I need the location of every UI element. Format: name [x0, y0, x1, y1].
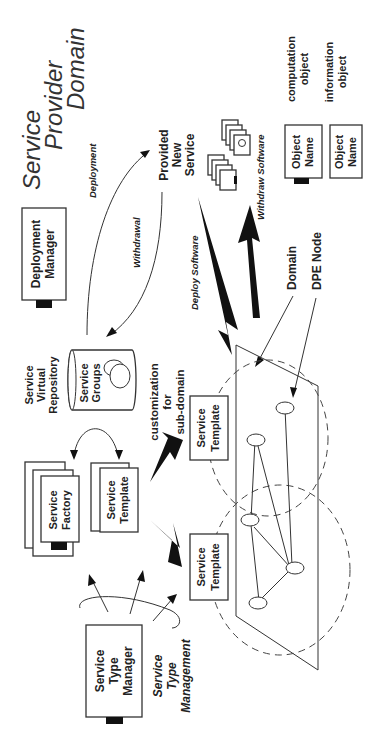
svg-text:Service: Service [195, 408, 207, 447]
service-type-manager: Service Type Manager [86, 625, 142, 724]
svg-text:Type: Type [165, 662, 179, 690]
svg-text:Object: Object [333, 135, 345, 170]
deploy-software-arrow-icon [198, 197, 238, 355]
svg-text:Template: Template [209, 543, 221, 590]
svg-text:Manager: Manager [43, 229, 57, 279]
svg-text:Deployment: Deployment [29, 220, 43, 289]
withdraw-software-arrow-icon [238, 205, 260, 318]
customization: customization for sub-domain [148, 363, 186, 567]
svg-text:Provided: Provided [157, 129, 171, 180]
svg-text:for: for [161, 394, 173, 410]
computation-marker-icon [36, 300, 52, 308]
repository-arrows [70, 429, 123, 460]
svg-text:New: New [170, 142, 184, 167]
svg-text:Object: Object [290, 135, 302, 170]
svg-text:Service: Service [195, 547, 207, 586]
svg-text:Repository: Repository [47, 355, 59, 413]
svg-text:DPE Node: DPE Node [310, 232, 324, 290]
arrow-head-icon [290, 387, 297, 398]
svg-text:Deploy Software: Deploy Software [189, 235, 200, 310]
svg-text:Template: Template [209, 404, 221, 451]
svg-text:Withdraw Software: Withdraw Software [255, 134, 266, 220]
deployment-manager-box: Deployment Manager [22, 208, 66, 308]
svg-text:Domain: Domain [62, 27, 89, 110]
provided-new-service: Provided New Service [157, 129, 197, 180]
svg-text:Service: Service [183, 133, 197, 176]
svg-text:object: object [298, 52, 310, 85]
customization-arrow-icon [150, 520, 182, 567]
svg-text:Management: Management [179, 638, 193, 712]
svg-text:Domain: Domain [285, 246, 299, 290]
arrow-head-icon [88, 574, 96, 586]
arrow-head-icon [70, 450, 78, 460]
domain-labels: Domain DPE Node [255, 232, 324, 398]
dpe-node-icon [249, 597, 267, 609]
svg-text:Factory: Factory [60, 489, 72, 530]
service-template-stack: Service Template [91, 463, 138, 532]
svg-text:Service: Service [151, 654, 165, 697]
svg-text:Groups: Groups [90, 363, 102, 402]
diagram-title: Service Provider Domain [18, 27, 89, 190]
legend-information-object: Object Name information object [323, 41, 362, 178]
svg-text:sub-domain: sub-domain [174, 369, 186, 434]
arrow-head-icon [106, 327, 117, 337]
svg-text:Service: Service [105, 480, 117, 519]
svg-text:Virtual: Virtual [35, 368, 47, 402]
svg-text:Deployment: Deployment [87, 143, 98, 198]
svg-text:object: object [336, 55, 348, 88]
sub-domain-boundary [210, 485, 350, 655]
service-factory-stack: Service Factory [25, 462, 79, 556]
dpe-node-icon [247, 434, 265, 446]
svg-text:Template: Template [118, 476, 130, 523]
svg-text:computation: computation [285, 36, 297, 102]
service-provider-diagram: Service Provider Domain Deployment Manag… [0, 0, 374, 745]
svg-text:Service: Service [93, 649, 107, 692]
dpe-node-icon [241, 514, 259, 526]
deployment-arrows: Deployment Withdrawal [87, 143, 162, 337]
svg-text:customization: customization [148, 363, 160, 440]
svg-text:Service: Service [47, 490, 59, 529]
svg-text:information: information [323, 41, 335, 102]
svg-text:Name: Name [303, 137, 315, 167]
svg-text:Withdrawal: Withdrawal [131, 217, 142, 268]
computation-marker-icon [294, 178, 309, 184]
service-template-box-2: Service Template [190, 534, 228, 600]
svg-text:Service: Service [78, 363, 90, 402]
arrow-head-icon [115, 450, 123, 460]
computation-marker-icon [51, 542, 67, 550]
service-template-box-1: Service Template [190, 396, 228, 460]
service-virtual-repository: Service Virtual Repository Service Group… [23, 350, 136, 414]
legend-computation-object: Object Name computation object [285, 36, 322, 184]
search-documents-icon [222, 120, 250, 155]
computation-marker-icon [106, 717, 123, 724]
domain-plane [208, 345, 350, 670]
svg-text:Name: Name [346, 137, 358, 167]
svg-text:Type: Type [107, 657, 121, 684]
dpe-node-icon [286, 562, 304, 574]
disk-documents-icon [208, 155, 237, 190]
dpe-node-icon [276, 402, 294, 414]
svg-text:Manager: Manager [121, 646, 135, 696]
arrow-head-icon [137, 570, 145, 582]
svg-text:Service: Service [23, 365, 35, 404]
